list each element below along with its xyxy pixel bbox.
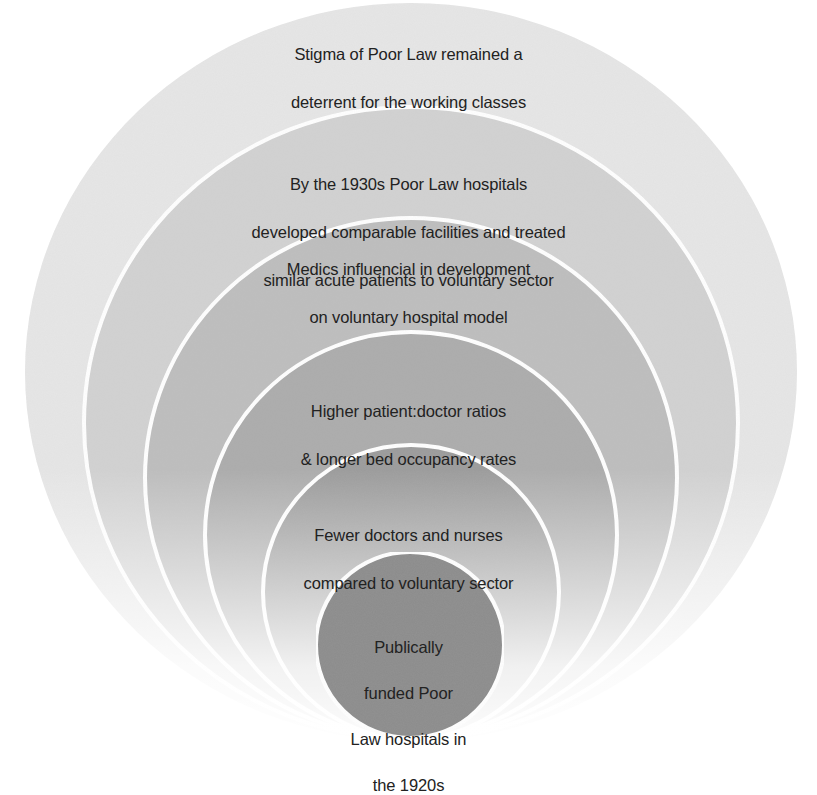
- ring-6-line-4: the 1920s: [0, 774, 817, 795]
- ring-1-line-2: deterrent for the working classes: [0, 90, 817, 114]
- ring-1-label: Stigma of Poor Law remained a deterrent …: [0, 18, 817, 138]
- ring-3-label: Medics influencial in development on vol…: [0, 233, 817, 353]
- ring-6-line-2: funded Poor: [0, 682, 817, 705]
- ring-6-label: Publically funded Poor Law hospitals in …: [0, 613, 817, 795]
- ring-1-line-1: Stigma of Poor Law remained a: [0, 42, 817, 66]
- ring-2-line-1: By the 1930s Poor Law hospitals: [0, 172, 817, 196]
- ring-5-line-1: Fewer doctors and nurses: [0, 523, 817, 547]
- ring-4-line-1: Higher patient:doctor ratios: [0, 399, 817, 423]
- ring-3-line-2: on voluntary hospital model: [0, 305, 817, 329]
- ring-5-label: Fewer doctors and nurses compared to vol…: [0, 499, 817, 619]
- ring-5-line-2: compared to voluntary sector: [0, 571, 817, 595]
- ring-3-line-1: Medics influencial in development: [0, 257, 817, 281]
- ring-4-line-2: & longer bed occupancy rates: [0, 447, 817, 471]
- ring-6-line-1: Publically: [0, 636, 817, 659]
- ring-4-label: Higher patient:doctor ratios & longer be…: [0, 375, 817, 495]
- ring-6-line-3: Law hospitals in: [0, 728, 817, 751]
